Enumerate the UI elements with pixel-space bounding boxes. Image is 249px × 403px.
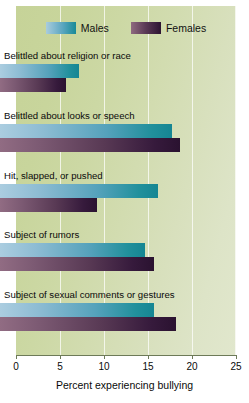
legend-entry-females: Females (131, 22, 206, 34)
x-axis-title: Percent experiencing bullying (0, 379, 249, 391)
females-swatch-icon (131, 22, 161, 34)
x-tick-label-25: 25 (230, 361, 241, 373)
x-tick-label-0: 0 (13, 361, 19, 373)
bar-females-2 (0, 198, 97, 212)
category-label-4: Subject of sexual comments or gestures (4, 289, 175, 300)
legend-label-males: Males (81, 23, 109, 34)
x-tick-mark-25 (236, 355, 237, 359)
legend-entry-males: Males (46, 22, 109, 34)
bar-males-0 (0, 64, 79, 78)
bar-females-4 (0, 317, 176, 331)
males-swatch-icon (46, 22, 76, 34)
category-label-3: Subject of rumors (4, 229, 79, 240)
bar-chart-figure: Males Females Belittled about religion o… (0, 0, 249, 403)
bar-males-2 (0, 184, 158, 198)
bar-males-1 (0, 124, 172, 138)
x-tick-mark-0 (16, 355, 17, 359)
x-tick-label-10: 10 (98, 361, 109, 373)
x-axis-line (16, 355, 236, 356)
x-tick-label-15: 15 (142, 361, 153, 373)
category-label-2: Hit, slapped, or pushed (4, 170, 103, 181)
bar-females-0 (0, 78, 66, 92)
bar-males-3 (0, 243, 145, 257)
x-tick-mark-10 (104, 355, 105, 359)
category-label-0: Belittled about religion or race (4, 50, 131, 61)
category-label-1: Belittled about looks or speech (4, 110, 135, 121)
x-tick-label-20: 20 (186, 361, 197, 373)
legend: Males Females (16, 18, 236, 38)
bar-females-3 (0, 257, 154, 271)
legend-label-females: Females (166, 23, 206, 34)
x-tick-label-5: 5 (57, 361, 63, 373)
gridline-25 (235, 6, 236, 355)
x-tick-mark-20 (192, 355, 193, 359)
gridline-20 (192, 6, 193, 355)
bar-males-4 (0, 303, 154, 317)
x-tick-mark-15 (148, 355, 149, 359)
bar-females-1 (0, 138, 180, 152)
x-tick-mark-5 (60, 355, 61, 359)
